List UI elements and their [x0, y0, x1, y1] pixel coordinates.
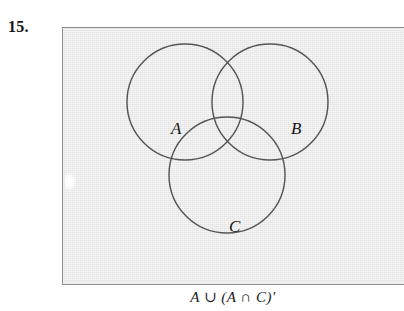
- set-label-c: C: [229, 218, 240, 235]
- venn-diagram-panel: A B C: [62, 27, 404, 285]
- venn-circles-svg: [63, 28, 404, 286]
- exercise-figure-page: 15. A B C A ∪ (A ∩ C)′: [0, 0, 404, 311]
- exercise-number: 15.: [8, 18, 29, 36]
- venn-circle-b: [212, 44, 328, 160]
- set-label-a: A: [171, 120, 181, 137]
- venn-circle-c: [169, 117, 285, 233]
- figure-caption: A ∪ (A ∩ C)′: [62, 288, 404, 306]
- set-label-b: B: [291, 120, 301, 137]
- venn-circle-a: [127, 44, 243, 160]
